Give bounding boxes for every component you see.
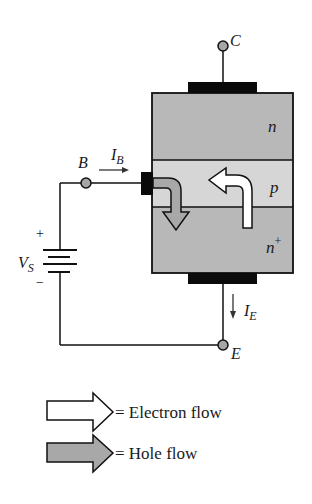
collector-terminal-node bbox=[218, 41, 228, 51]
emitter-current-arrow-head bbox=[230, 311, 236, 319]
collector-region-label: n bbox=[268, 117, 277, 136]
source-plus-sign: + bbox=[36, 226, 44, 241]
emitter-label: E bbox=[230, 345, 241, 362]
legend-hole-arrow-icon bbox=[47, 435, 113, 472]
bjt-diagram: C n p n+ B IB + − VS E IE = Electron flo… bbox=[0, 0, 312, 504]
collector-contact bbox=[188, 82, 257, 93]
base-current-arrow-head bbox=[122, 167, 129, 173]
legend-hole-text: = Hole flow bbox=[115, 444, 198, 463]
source-label: VS bbox=[18, 254, 34, 275]
base-terminal-node bbox=[81, 178, 91, 188]
legend: = Electron flow = Hole flow bbox=[47, 393, 223, 472]
emitter-current-label: IE bbox=[243, 302, 257, 323]
base-current-label: IB bbox=[110, 146, 124, 167]
base-label: B bbox=[78, 154, 88, 171]
collector-label: C bbox=[230, 32, 241, 49]
legend-electron-text: = Electron flow bbox=[115, 403, 223, 422]
legend-electron-arrow-icon bbox=[47, 393, 113, 431]
base-region-label: p bbox=[269, 178, 279, 197]
emitter-terminal-node bbox=[218, 340, 228, 350]
source-minus-sign: − bbox=[36, 275, 44, 290]
emitter-contact bbox=[188, 273, 257, 284]
base-contact bbox=[141, 172, 153, 195]
